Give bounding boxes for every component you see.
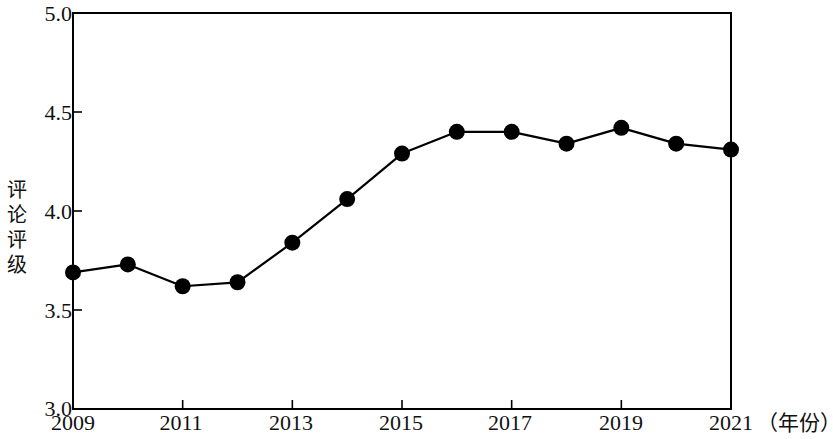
data-point-2017: [504, 124, 520, 140]
plot-area: [0, 0, 833, 439]
data-point-2018: [559, 136, 575, 152]
chart-container: 评论 评级 5.0 4.5 4.0 3.5 3.0 2009 2011 2013…: [0, 0, 833, 439]
x-axis-ticks: [183, 400, 622, 409]
data-point-2019: [613, 120, 629, 136]
data-point-2020: [668, 136, 684, 152]
data-point-2013: [284, 235, 300, 251]
data-point-2016: [449, 124, 465, 140]
data-point-2014: [339, 191, 355, 207]
data-point-2012: [230, 274, 246, 290]
plot-frame: [73, 13, 731, 409]
data-point-2011: [175, 278, 191, 294]
data-point-2010: [120, 256, 136, 272]
y-axis-ticks: [73, 112, 82, 310]
data-point-2015: [394, 146, 410, 162]
data-point-2009: [65, 264, 81, 280]
data-point-markers: [65, 120, 739, 294]
data-point-2021: [723, 142, 739, 158]
